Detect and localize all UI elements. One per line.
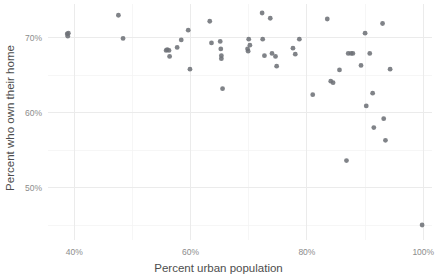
data-point: [370, 91, 375, 96]
data-point: [219, 56, 224, 61]
data-point: [383, 138, 388, 143]
data-point: [186, 28, 191, 33]
data-point: [359, 63, 364, 68]
chart-canvas: 40%60%80%100% 50%60%70% Percent urban po…: [0, 0, 437, 279]
data-point: [364, 103, 369, 108]
data-point: [293, 52, 298, 57]
data-point: [262, 53, 267, 58]
data-point: [291, 46, 296, 51]
data-point: [371, 125, 376, 130]
data-point: [363, 31, 368, 36]
data-point: [246, 49, 251, 54]
data-point: [325, 17, 330, 22]
x-tick-label: 60%: [182, 247, 199, 257]
data-point: [175, 45, 180, 50]
y-axis-title: Percent who own their home: [4, 45, 16, 191]
data-point: [121, 36, 126, 41]
data-point: [218, 47, 223, 52]
data-point: [350, 51, 355, 56]
data-point: [179, 38, 184, 43]
data-point: [273, 54, 278, 59]
x-tick-label: 40%: [66, 247, 83, 257]
data-point: [116, 13, 121, 18]
data-point: [260, 37, 265, 42]
data-point: [331, 80, 336, 85]
data-point: [188, 67, 193, 72]
data-point: [337, 68, 342, 73]
data-point: [260, 11, 265, 16]
data-point: [247, 43, 252, 48]
data-point: [207, 19, 212, 24]
data-point: [167, 48, 172, 53]
data-point: [297, 37, 302, 42]
data-point: [218, 39, 223, 44]
data-point: [167, 54, 172, 59]
data-point: [388, 67, 393, 72]
data-point: [381, 116, 386, 121]
data-point: [380, 21, 385, 26]
x-tick-label: 100%: [412, 247, 434, 257]
data-point: [310, 92, 315, 97]
data-point: [420, 223, 425, 228]
data-point: [268, 16, 273, 21]
x-tick-label: 80%: [298, 247, 315, 257]
x-axis-title: Percent urban population: [154, 262, 283, 274]
data-point: [274, 64, 279, 69]
y-tick-label: 60%: [25, 108, 42, 118]
y-tick-label: 50%: [25, 183, 42, 193]
data-point: [246, 37, 251, 42]
y-tick-label: 70%: [25, 33, 42, 43]
scatter-plot-figure: 40%60%80%100% 50%60%70% Percent urban po…: [0, 0, 437, 279]
data-point: [220, 86, 225, 91]
data-point: [66, 31, 71, 36]
data-point: [344, 158, 349, 163]
data-point: [367, 51, 372, 56]
data-point: [209, 41, 214, 46]
